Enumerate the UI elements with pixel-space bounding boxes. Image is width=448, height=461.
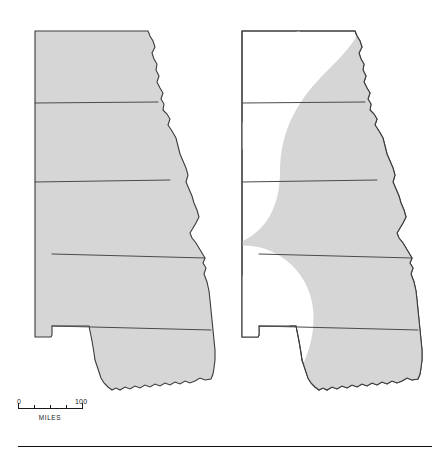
scale-tick-4: [82, 403, 83, 409]
scale-tick-0: [18, 403, 19, 409]
scale-units-label: MILES: [18, 414, 82, 421]
figure-container: 0 100 MILES: [0, 0, 448, 461]
map-right: [0, 0, 448, 461]
distance-scale: 0 100 MILES: [18, 398, 90, 424]
scale-tick-2: [50, 405, 51, 409]
footer-divider: [18, 446, 432, 447]
scale-tick-3: [66, 405, 67, 409]
scale-tick-1: [34, 405, 35, 409]
